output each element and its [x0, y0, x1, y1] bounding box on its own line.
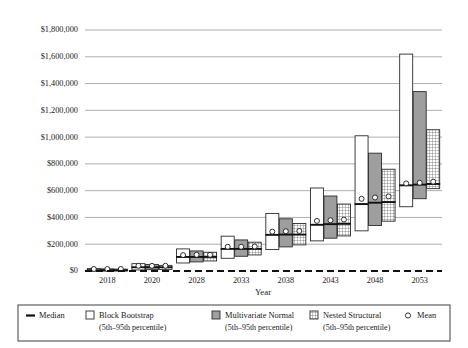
mean-marker: [208, 252, 213, 257]
year-group-2033: [221, 236, 262, 258]
legend-item-label: Mean: [417, 311, 437, 320]
mean-marker: [149, 263, 154, 268]
year-group-2038: [265, 213, 306, 249]
mean-marker: [163, 263, 168, 268]
y-axis-tick-label: $600,000: [47, 186, 78, 195]
year-group-2043: [310, 188, 351, 241]
mean-marker: [297, 228, 302, 233]
year-group-2020: [131, 263, 172, 270]
mean-marker: [341, 217, 346, 222]
hatched-square-icon: [310, 311, 318, 319]
mean-marker: [270, 229, 275, 234]
x-axis-tick-label: 2020: [144, 276, 161, 285]
x-axis-tick-labels: 20182020202820332038204320482053: [99, 276, 428, 285]
y-axis-tick-label: $800,000: [47, 159, 78, 168]
legend-item-label: Median: [39, 311, 65, 320]
x-axis-tick-label: 2053: [411, 276, 428, 285]
legend-item-white-square[interactable]: Block Bootstrap(5th–95th percentile): [86, 311, 167, 332]
legend-item-label: Nested Structural: [323, 311, 382, 320]
forecast-box-chart: $0$200,000$400,000$600,000$800,000$1,000…: [0, 0, 468, 348]
mean-marker: [386, 194, 391, 199]
legend-item-gray-square[interactable]: Multivariate Normal(5th–95th percentile): [212, 311, 295, 332]
year-group-2053: [399, 54, 440, 207]
percentile-box: [324, 196, 337, 238]
white-square-icon: [86, 311, 94, 319]
chart-legend: MedianBlock Bootstrap(5th–95th percentil…: [18, 305, 450, 341]
mean-marker: [181, 253, 186, 258]
x-axis-tick-label: 2028: [188, 276, 205, 285]
mean-circle-icon: [405, 313, 410, 318]
legend-item-label: Block Bootstrap: [99, 311, 154, 320]
legend-item-circle[interactable]: Mean: [405, 311, 436, 320]
mean-marker: [431, 179, 436, 184]
x-axis-tick-label: 2038: [278, 276, 295, 285]
y-axis-tick-label: $0: [70, 266, 78, 275]
mean-marker: [417, 180, 422, 185]
legend-item-sublabel: (5th–95th percentile): [225, 323, 293, 332]
mean-marker: [225, 244, 230, 249]
box-series-group: [87, 54, 440, 271]
chart-container: $0$200,000$400,000$600,000$800,000$1,000…: [0, 0, 468, 348]
percentile-box: [310, 188, 323, 241]
x-axis-tick-label: 2048: [367, 276, 384, 285]
mean-marker: [194, 252, 199, 257]
x-axis-tick-label: 2033: [233, 276, 250, 285]
legend-item-sublabel: (5th–95th percentile): [99, 323, 167, 332]
mean-marker: [328, 218, 333, 223]
y-axis-tick-label: $1,000,000: [41, 133, 78, 142]
y-axis-tick-label: $1,600,000: [41, 52, 78, 61]
legend-item-median-line[interactable]: Median: [26, 311, 65, 320]
legend-item-hatch-square[interactable]: Nested Structural(5th–95th percentile): [310, 311, 391, 332]
mean-marker: [404, 181, 409, 186]
y-axis-tick-label: $1,800,000: [41, 25, 78, 34]
y-axis-tick-label: $1,400,000: [41, 79, 78, 88]
percentile-box: [369, 153, 382, 225]
mean-marker: [359, 196, 364, 201]
legend-item-label: Multivariate Normal: [225, 311, 295, 320]
percentile-box: [355, 136, 368, 231]
y-axis-tick-label: $400,000: [47, 213, 78, 222]
legend-item-sublabel: (5th–95th percentile): [323, 323, 391, 332]
mean-marker: [136, 263, 141, 268]
mean-marker: [91, 266, 96, 271]
x-axis-tick-label: 2043: [322, 276, 339, 285]
x-axis-title: Year: [255, 287, 271, 297]
mean-marker: [373, 195, 378, 200]
year-group-2048: [355, 136, 396, 231]
mean-marker: [252, 244, 257, 249]
y-axis-tick-labels: $0$200,000$400,000$600,000$800,000$1,000…: [41, 25, 78, 275]
mean-marker: [283, 229, 288, 234]
x-axis-tick-label: 2018: [99, 276, 116, 285]
y-axis-tick-label: $1,200,000: [41, 106, 78, 115]
gray-square-icon: [212, 311, 220, 319]
mean-marker: [314, 218, 319, 223]
year-group-2028: [176, 249, 217, 263]
y-axis-tick-label: $200,000: [47, 240, 78, 249]
mean-marker: [239, 244, 244, 249]
